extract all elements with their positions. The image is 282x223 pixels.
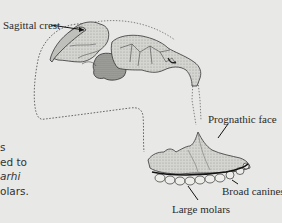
broad-canines-label: Broad canines bbox=[222, 186, 282, 197]
body-text-line: s bbox=[0, 140, 29, 155]
body-text-line-italic: arhi bbox=[0, 169, 29, 184]
broad-canines-leader bbox=[232, 180, 238, 184]
prognathic-face-leader bbox=[218, 124, 228, 138]
right-cranial-fragment bbox=[111, 35, 201, 86]
sagittal-crest-label: Sagittal crest bbox=[3, 20, 60, 31]
body-text-line: ed to bbox=[0, 155, 29, 170]
zygomatic-dashed bbox=[192, 80, 201, 125]
large-molars-label: Large molars bbox=[172, 204, 230, 215]
prognathic-face-label: Prognathic face bbox=[208, 114, 277, 125]
large-molars-leader bbox=[188, 186, 198, 200]
body-text-line: olars. bbox=[0, 184, 29, 199]
body-text-fragment: s ed to arhi olars. bbox=[0, 140, 29, 198]
skull-figure: Sagittal crest Prognathic face Broad can… bbox=[0, 0, 282, 223]
